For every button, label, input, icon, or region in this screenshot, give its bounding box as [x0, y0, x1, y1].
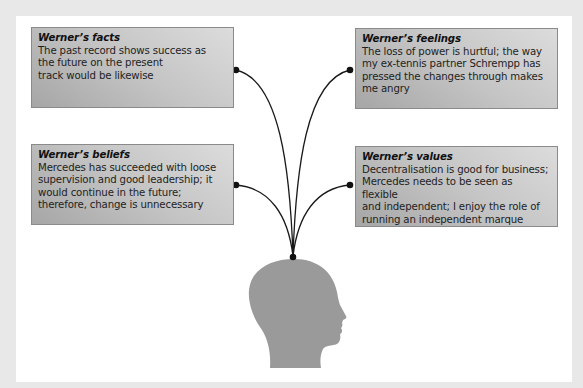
feelings-box: Werner’s feelings The loss of power is h… — [355, 28, 558, 109]
values-box: Werner’s values Decentralisation is good… — [355, 146, 558, 227]
values-title: Werner’s values — [362, 151, 551, 164]
feelings-text: The loss of power is hurtful; the way my… — [362, 46, 551, 96]
facts-title: Werner’s facts — [38, 32, 227, 45]
values-text: Decentralisation is good for business; M… — [362, 164, 551, 227]
beliefs-box: Werner’s beliefs Mercedes has succeeded … — [31, 144, 234, 225]
feelings-title: Werner’s feelings — [362, 33, 551, 46]
facts-text: The past record shows success as the fut… — [38, 45, 227, 83]
facts-box: Werner’s facts The past record shows suc… — [31, 27, 234, 108]
beliefs-text: Mercedes has succeeded with loose superv… — [38, 162, 227, 212]
beliefs-title: Werner’s beliefs — [38, 149, 227, 162]
